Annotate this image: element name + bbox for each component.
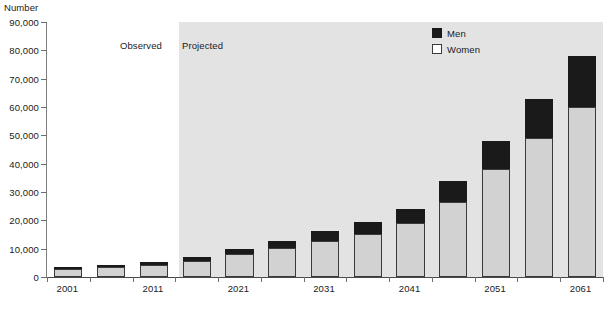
projected-period-label: Projected xyxy=(182,40,223,51)
bar-segment-men-2056 xyxy=(525,99,553,139)
observed-period-label: Observed xyxy=(120,40,162,51)
bar-segment-men-2021 xyxy=(225,249,253,255)
x-axis-tick xyxy=(389,277,390,282)
x-axis-tick xyxy=(475,277,476,282)
x-axis-tick xyxy=(218,277,219,282)
y-axis-tick xyxy=(41,249,47,250)
bar-segment-men-2041 xyxy=(396,209,424,223)
bar-segment-women-2021 xyxy=(225,254,253,277)
y-axis-tick-label: 20,000 xyxy=(9,215,39,226)
y-axis-tick xyxy=(41,50,47,51)
plot-area xyxy=(46,22,603,278)
y-axis-tick xyxy=(41,135,47,136)
bar-segment-women-2026 xyxy=(268,248,296,277)
y-axis-tick-label: 80,000 xyxy=(9,45,39,56)
bar-2001 xyxy=(54,267,82,277)
bar-segment-men-2001 xyxy=(54,267,82,269)
bar-2006 xyxy=(97,265,125,277)
y-axis-tick xyxy=(41,164,47,165)
x-axis-tick-label-2061: 2061 xyxy=(570,283,592,294)
bar-segment-women-2046 xyxy=(439,202,467,277)
x-axis-tick xyxy=(47,277,48,282)
x-axis-tick-label-2021: 2021 xyxy=(228,283,250,294)
x-axis-tick xyxy=(560,277,561,282)
y-axis-title: Number xyxy=(4,2,38,13)
stacked-bar-chart: Number 010,00020,00030,00040,00050,00060… xyxy=(0,0,613,309)
legend-label-men: Men xyxy=(447,28,466,39)
bar-2056 xyxy=(525,99,553,278)
bar-segment-women-2011 xyxy=(140,265,168,277)
bar-2031 xyxy=(311,231,339,277)
y-axis-tick-label: 10,000 xyxy=(9,243,39,254)
bar-segment-men-2026 xyxy=(268,241,296,248)
bar-segment-women-2001 xyxy=(54,269,82,278)
y-axis-tick xyxy=(41,22,47,23)
bar-segment-men-2061 xyxy=(568,56,596,107)
bar-2011 xyxy=(140,262,168,277)
bar-segment-men-2011 xyxy=(140,262,168,265)
bar-segment-women-2016 xyxy=(183,261,211,277)
bar-2051 xyxy=(482,141,510,277)
y-axis-tick-label: 50,000 xyxy=(9,130,39,141)
x-axis-tick-label-2051: 2051 xyxy=(484,283,506,294)
legend-item-women: Women xyxy=(432,42,480,56)
y-axis-tick-label: 60,000 xyxy=(9,102,39,113)
bar-segment-women-2031 xyxy=(311,241,339,277)
bar-2021 xyxy=(225,249,253,277)
x-axis-tick xyxy=(432,277,433,282)
bar-segment-women-2056 xyxy=(525,138,553,277)
y-axis-tick-label: 40,000 xyxy=(9,158,39,169)
bar-2016 xyxy=(183,257,211,277)
chart-legend: Men Women xyxy=(432,26,480,58)
bar-2061 xyxy=(568,56,596,277)
x-axis-tick-label-2041: 2041 xyxy=(399,283,421,294)
legend-item-men: Men xyxy=(432,26,480,40)
bar-2036 xyxy=(354,222,382,277)
y-axis-tick xyxy=(41,192,47,193)
x-axis-tick xyxy=(603,277,604,282)
y-axis-tick xyxy=(41,79,47,80)
bar-2046 xyxy=(439,181,467,277)
y-axis-tick xyxy=(41,220,47,221)
y-axis-tick-label: 90,000 xyxy=(9,17,39,28)
bar-segment-women-2051 xyxy=(482,169,510,277)
bar-segment-women-2036 xyxy=(354,234,382,277)
plot-inner xyxy=(47,22,603,277)
legend-label-women: Women xyxy=(447,44,480,55)
y-axis-tick-label: 30,000 xyxy=(9,187,39,198)
bar-segment-men-2051 xyxy=(482,141,510,169)
bar-segment-men-2006 xyxy=(97,265,125,268)
x-axis-tick-label-2011: 2011 xyxy=(143,283,164,294)
x-axis-label-row: 2001201120212031204120512061 xyxy=(46,283,602,303)
legend-swatch-men-icon xyxy=(432,28,442,38)
x-axis-tick xyxy=(261,277,262,282)
x-axis-tick xyxy=(90,277,91,282)
y-axis-tick-label: 70,000 xyxy=(9,73,39,84)
bar-2026 xyxy=(268,241,296,277)
x-axis-tick xyxy=(304,277,305,282)
bar-segment-women-2041 xyxy=(396,223,424,277)
x-axis-tick xyxy=(346,277,347,282)
bar-segment-men-2036 xyxy=(354,222,382,233)
bar-segment-women-2061 xyxy=(568,107,596,277)
bar-2041 xyxy=(396,209,424,277)
x-axis-tick-label-2001: 2001 xyxy=(57,283,79,294)
bar-segment-men-2046 xyxy=(439,181,467,202)
y-axis-label-column: 010,00020,00030,00040,00050,00060,00070,… xyxy=(0,22,39,277)
x-axis-tick-label-2031: 2031 xyxy=(313,283,335,294)
y-axis-tick xyxy=(41,107,47,108)
x-axis-tick xyxy=(175,277,176,282)
x-axis-tick xyxy=(517,277,518,282)
bar-segment-men-2031 xyxy=(311,231,339,241)
bar-segment-men-2016 xyxy=(183,257,211,261)
legend-swatch-women-icon xyxy=(432,44,442,54)
x-axis-tick xyxy=(133,277,134,282)
y-axis-tick-label: 0 xyxy=(34,272,39,283)
bar-segment-women-2006 xyxy=(97,267,125,277)
